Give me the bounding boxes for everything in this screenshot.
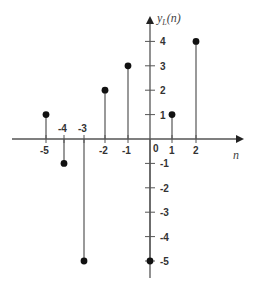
y-tick-label: -1 [160,158,169,169]
y-tick-label: 2 [160,85,166,96]
x-tick-label: -2 [99,145,108,156]
y-tick-label: 4 [160,36,166,47]
stem-marker [81,258,88,265]
y-tick-label: 3 [160,61,166,72]
x-tick-label: -5 [40,145,49,156]
stem-marker [125,62,132,69]
x-tick-label: 2 [193,145,199,156]
x-axis-title: n [233,148,239,162]
y-tick-label: -2 [160,183,169,194]
stem-marker [102,87,109,94]
y-tick-label: -5 [160,256,169,267]
y-tick-label: -4 [160,232,169,243]
x-tick-label: -1 [122,145,131,156]
stem-marker [147,258,154,265]
stem-marker [169,111,176,118]
stem-marker [61,160,68,167]
stem-marker [43,111,50,118]
x-tick-label: 1 [169,145,175,156]
y-axis-title-arg: (n) [167,11,181,25]
y-tick-label: -3 [160,207,169,218]
y-axis-title: yL(n) [156,11,181,27]
x-tick-label: -3 [78,123,87,134]
stem-marker [193,38,200,45]
x-tick-label: 0 [153,143,159,154]
y-tick-label: 1 [160,110,166,121]
stem-plot: 4321-1-2-3-4-5 -5-4-3-2-1012 yL(n) n [0,0,255,288]
x-tick-label: -4 [58,123,67,134]
svg-text:yL(n): yL(n) [156,11,181,27]
stems [43,38,200,264]
